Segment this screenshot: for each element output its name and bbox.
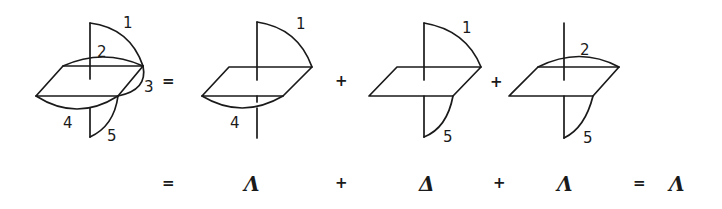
arc-4 — [36, 96, 118, 109]
equals-operator: = — [162, 72, 175, 90]
figure-full: 1 2 3 4 5 — [36, 14, 154, 145]
diagram-canvas: 1 2 3 4 5 = 1 4 + 1 5 + 2 5 — [0, 0, 722, 209]
lambda-symbol: Λ — [667, 172, 685, 196]
lambda-symbol: Λ — [242, 172, 260, 196]
label-5: 5 — [583, 129, 593, 147]
plus-operator: + — [335, 72, 348, 90]
arc-1 — [424, 23, 481, 67]
label-1: 1 — [123, 14, 133, 32]
label-2: 2 — [97, 43, 107, 61]
figure-term-2-5: 2 5 — [509, 23, 619, 147]
label-5: 5 — [443, 128, 453, 146]
equals-operator: = — [162, 174, 175, 192]
label-5: 5 — [107, 127, 117, 145]
lambda-symbol: Λ — [555, 172, 573, 196]
delta-symbol: Δ — [418, 172, 435, 196]
plus-operator: + — [335, 174, 348, 192]
plus-operator: + — [490, 73, 503, 91]
label-4: 4 — [63, 114, 73, 132]
bottom-equation: = Λ + Δ + Λ = Λ — [162, 172, 685, 196]
arc-2 — [538, 57, 619, 68]
equals-operator: = — [633, 174, 646, 192]
arc-4 — [202, 96, 283, 108]
label-1: 1 — [462, 19, 472, 37]
label-3: 3 — [144, 78, 154, 96]
label-4: 4 — [230, 114, 240, 132]
plus-operator: + — [493, 174, 506, 192]
label-1: 1 — [296, 15, 306, 33]
figure-term-1-4: 1 4 — [202, 15, 312, 138]
label-2: 2 — [580, 41, 590, 59]
parallelogram — [369, 67, 481, 96]
figure-term-1-5: 1 5 — [369, 19, 481, 146]
